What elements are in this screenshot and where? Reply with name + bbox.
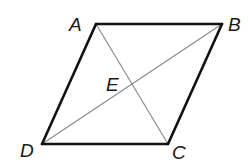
parallelogram-diagram: A B E D C	[0, 0, 248, 163]
label-d: D	[20, 140, 34, 161]
label-c: C	[172, 142, 186, 163]
label-e: E	[106, 74, 119, 95]
label-b: B	[228, 14, 241, 35]
label-a: A	[68, 14, 82, 35]
